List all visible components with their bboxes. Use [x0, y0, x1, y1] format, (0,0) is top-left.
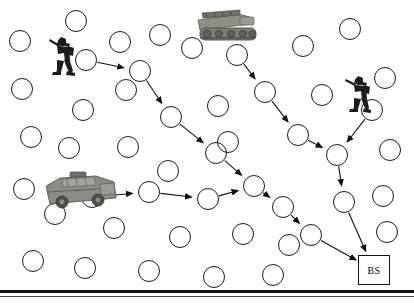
- relay-node[interactable]: [333, 191, 355, 213]
- sensor-node[interactable]: [20, 126, 42, 148]
- sensor-node[interactable]: [311, 84, 333, 106]
- sensor-node[interactable]: [138, 260, 160, 282]
- routing-link: [321, 241, 356, 260]
- routing-link: [225, 161, 242, 176]
- sensor-node[interactable]: [232, 223, 254, 245]
- routing-link: [219, 190, 238, 195]
- base-station-label: BS: [368, 265, 381, 276]
- sensor-node[interactable]: [13, 178, 35, 200]
- tracked-vehicle-icon: [194, 8, 262, 52]
- sensor-node[interactable]: [262, 264, 284, 286]
- relay-node[interactable]: [243, 175, 265, 197]
- sensor-node[interactable]: [278, 234, 300, 256]
- routing-link: [291, 215, 299, 223]
- relay-node[interactable]: [326, 144, 348, 166]
- sensor-node[interactable]: [103, 217, 125, 239]
- routing-link: [347, 119, 365, 142]
- routing-link: [308, 140, 322, 147]
- sensor-node[interactable]: [207, 95, 229, 117]
- sensor-node[interactable]: [372, 185, 394, 207]
- sensor-node[interactable]: [74, 257, 96, 279]
- routing-link: [146, 81, 161, 104]
- sensor-node[interactable]: [65, 10, 87, 32]
- network-scene: BS: [0, 0, 414, 303]
- frame-bottom-line: [0, 296, 414, 297]
- base-station-box[interactable]: BS: [358, 255, 390, 285]
- routing-link: [263, 193, 269, 198]
- relay-node[interactable]: [287, 124, 309, 146]
- sensor-node[interactable]: [115, 79, 137, 101]
- sensor-node[interactable]: [339, 18, 361, 40]
- relay-node[interactable]: [300, 224, 322, 246]
- sensor-node[interactable]: [58, 137, 80, 159]
- sensor-node[interactable]: [117, 136, 139, 158]
- routing-link: [272, 101, 288, 122]
- relay-node[interactable]: [129, 60, 151, 82]
- routing-link: [339, 166, 342, 185]
- sensor-node[interactable]: [109, 31, 131, 53]
- relay-node[interactable]: [160, 106, 182, 128]
- relay-node[interactable]: [138, 181, 160, 203]
- routing-link: [160, 193, 191, 197]
- sensor-node[interactable]: [72, 99, 94, 121]
- soldier-left-icon: [44, 31, 80, 77]
- sensor-node[interactable]: [169, 226, 191, 248]
- relay-node[interactable]: [205, 142, 227, 164]
- routing-link: [97, 62, 124, 67]
- diagram-canvas: BS: [0, 0, 414, 303]
- frame-bottom-bar: [0, 290, 414, 293]
- sensor-node[interactable]: [376, 221, 398, 243]
- sensor-node[interactable]: [11, 78, 33, 100]
- sensor-node[interactable]: [149, 24, 171, 46]
- sensor-node[interactable]: [9, 30, 31, 52]
- routing-link: [180, 124, 203, 143]
- soldier-right-icon: [342, 70, 376, 114]
- relay-node[interactable]: [197, 188, 219, 210]
- relay-node[interactable]: [272, 196, 294, 218]
- sensor-node[interactable]: [374, 67, 396, 89]
- relay-node[interactable]: [254, 81, 276, 103]
- sensor-node[interactable]: [157, 160, 179, 182]
- sensor-node[interactable]: [292, 35, 314, 57]
- sensor-node[interactable]: [379, 139, 401, 161]
- armored-vehicle-icon: [40, 170, 122, 212]
- sensor-node[interactable]: [22, 250, 44, 272]
- routing-link: [349, 213, 366, 252]
- routing-link: [244, 64, 255, 79]
- sensor-node[interactable]: [203, 266, 225, 288]
